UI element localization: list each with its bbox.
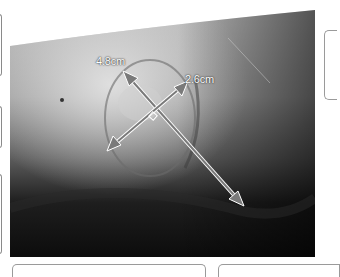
layout-frame-bottom-left (12, 264, 206, 277)
wound-photograph (10, 8, 315, 257)
layout-frame-left-bottom (0, 174, 2, 254)
layout-frame-bottom-right (218, 264, 340, 277)
length-measurement-label: 4.8cm (96, 55, 125, 67)
layout-frame-left-top (0, 14, 2, 76)
width-measurement-label: 2.6cm (185, 73, 214, 85)
layout-frame-left-mid (0, 106, 2, 148)
layout-frame-right (324, 30, 337, 100)
